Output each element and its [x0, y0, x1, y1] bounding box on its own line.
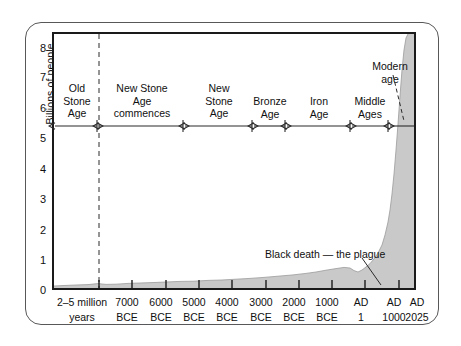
period-label-middle-ages: Middle Ages — [345, 95, 395, 120]
period-line: Ages — [358, 108, 382, 120]
y-tick-label-0: 0 — [30, 285, 46, 296]
y-tick-label-2: 2 — [30, 225, 46, 236]
period-line: Age — [68, 107, 87, 119]
y-tick-label-5: 5 — [30, 133, 46, 144]
period-label-new-stone-age-commences: New Stone Age commences — [101, 82, 183, 120]
period-line: Age — [310, 108, 329, 120]
period-line: Age — [133, 95, 152, 107]
period-line: Middle — [355, 95, 386, 107]
period-line: Stone — [205, 95, 232, 107]
period-line: New — [208, 82, 229, 94]
period-label-bronze-age: Bronze Age — [244, 95, 296, 120]
period-line: Stone — [63, 95, 90, 107]
period-line: Age — [210, 107, 229, 119]
y-tick-label-7: 7 — [30, 72, 46, 83]
period-line: Bronze — [253, 95, 286, 107]
period-line: Old — [69, 82, 85, 94]
x-tick-line1: AD — [395, 296, 439, 308]
period-label-old-stone-age: Old Stone Age — [56, 82, 98, 120]
period-line: Modern — [372, 60, 408, 72]
period-label-iron-age: Iron Age — [296, 95, 342, 120]
y-tick-label-3: 3 — [30, 194, 46, 205]
period-label-modern-age: Modern age — [362, 60, 418, 85]
y-tick-label-6: 6 — [30, 103, 46, 114]
black-death-annotation: Black death — the plague — [265, 248, 385, 260]
period-line: Iron — [310, 95, 328, 107]
x-tick-line2: 2025 — [395, 311, 439, 323]
x-tick-label-10: AD 2025 — [395, 296, 439, 323]
y-tick-label-8: 8 — [30, 43, 46, 54]
population-timeline-figure: Billions of people 8 7 6 5 4 3 2 1 0 — [0, 0, 461, 346]
y-tick-label-1: 1 — [30, 255, 46, 266]
period-label-new-stone-age: New Stone Age — [186, 82, 252, 120]
period-line: commences — [114, 107, 171, 119]
period-line: New Stone — [116, 82, 167, 94]
y-tick-label-4: 4 — [30, 164, 46, 175]
period-line: Age — [261, 108, 280, 120]
period-line: age — [381, 73, 399, 85]
